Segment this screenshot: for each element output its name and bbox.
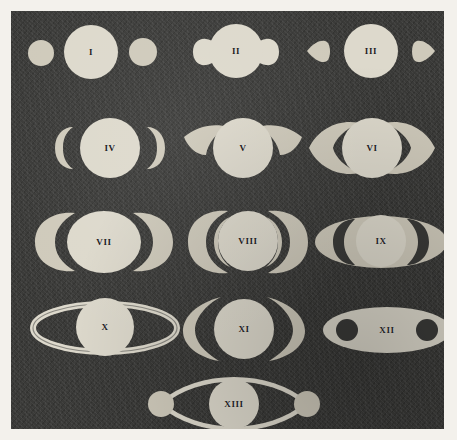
figure-label-IX: IX [375, 236, 386, 246]
figure-IV[interactable]: IV [43, 111, 177, 185]
figure-label-IV: IV [104, 143, 115, 153]
figure-IX[interactable]: IX [311, 207, 444, 277]
figure-VII[interactable]: VII [29, 203, 179, 281]
figure-label-V: V [239, 143, 246, 153]
figure-I[interactable]: I [21, 17, 161, 87]
figure-label-II: II [232, 46, 240, 56]
figure-label-XIII: XIII [224, 399, 243, 409]
figure-XI[interactable]: XI [171, 291, 317, 367]
engraved-plate: I II III IV [0, 0, 457, 440]
figure-label-X: X [101, 322, 108, 332]
figure-label-XI: XI [238, 324, 249, 334]
figure-label-VII: VII [96, 237, 111, 247]
figure-VIII[interactable]: VIII [174, 203, 322, 281]
figure-label-I: I [89, 47, 93, 57]
figure-label-III: III [365, 46, 377, 56]
figure-X[interactable]: X [29, 293, 181, 365]
plate-panel: I II III IV [11, 11, 444, 429]
figure-V[interactable]: V [174, 111, 312, 185]
figure-XIII[interactable]: XIII [139, 373, 329, 429]
figure-XII[interactable]: XII [319, 299, 444, 361]
figure-label-VI: VI [366, 143, 377, 153]
figure-II[interactable]: II [163, 17, 309, 87]
figure-label-XII: XII [379, 325, 394, 335]
figure-VI[interactable]: VI [301, 109, 443, 187]
figure-III[interactable]: III [303, 17, 439, 87]
figure-label-VIII: VIII [238, 236, 257, 246]
